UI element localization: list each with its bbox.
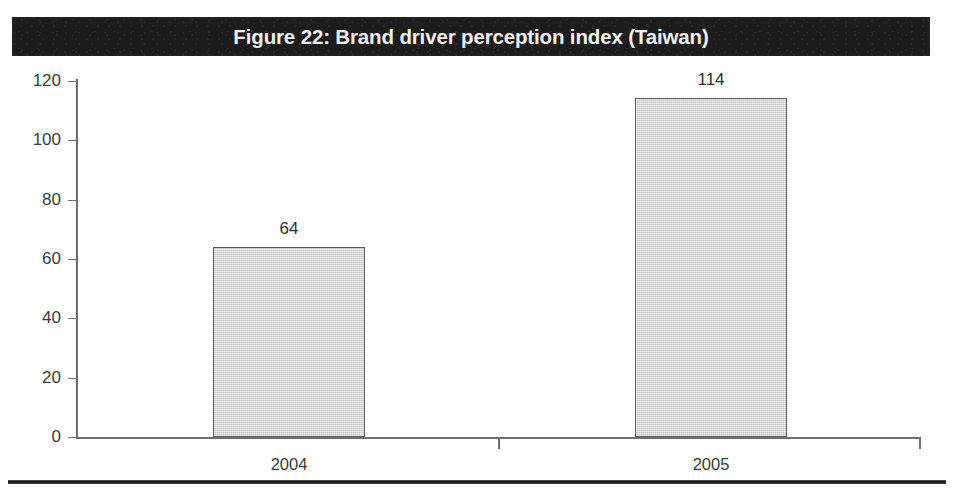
y-axis-tick-0: [68, 437, 77, 438]
bar-value-label-2005: 114: [697, 70, 724, 90]
y-axis-tick-100: [68, 140, 77, 141]
y-axis-label-20: 20: [42, 368, 61, 388]
x-axis-tick-mid: [498, 438, 500, 449]
y-axis-label-40: 40: [42, 308, 61, 328]
y-axis-label-100: 100: [33, 130, 61, 150]
bottom-divider: [8, 480, 946, 484]
y-axis-tick-20: [68, 378, 77, 379]
x-axis-tick-right: [919, 438, 921, 449]
y-axis-tick-80: [68, 200, 77, 201]
x-axis-label-2004: 2004: [271, 455, 308, 474]
y-axis-label-60: 60: [42, 249, 61, 269]
x-axis-label-2005: 2005: [693, 455, 730, 474]
y-axis-tick-40: [68, 318, 77, 319]
bar-value-label-2004: 64: [280, 219, 299, 239]
bar-2004[interactable]: [213, 247, 365, 437]
figure-container: Figure 22: Brand driver perception index…: [0, 0, 953, 494]
bar-2005[interactable]: [635, 98, 787, 437]
y-axis-tick-120: [68, 81, 77, 82]
y-axis-label-0: 0: [52, 427, 61, 447]
y-axis-label-80: 80: [42, 190, 61, 210]
y-axis-label-120: 120: [33, 71, 61, 91]
y-axis-tick-60: [68, 259, 77, 260]
plot-area: 0 20 40 60 80 100 120 2004 2005 64 114: [0, 0, 953, 494]
